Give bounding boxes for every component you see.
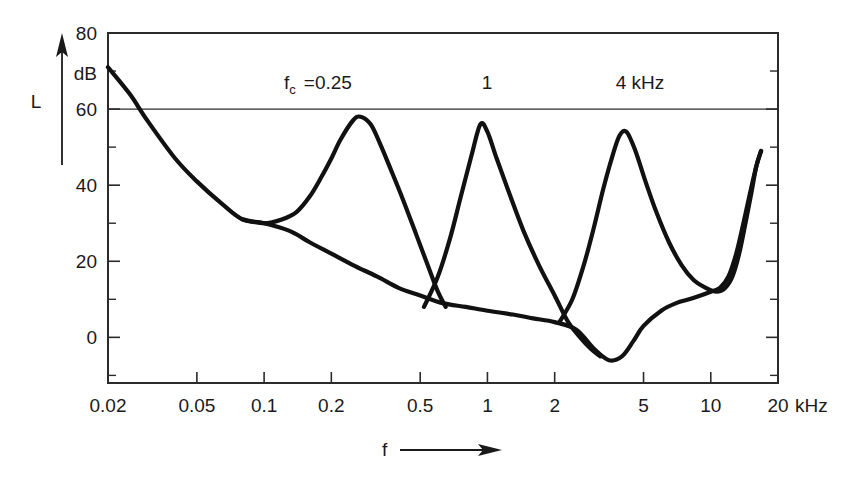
x-tick-label: 10 (700, 395, 721, 416)
masker-subscript: c (289, 82, 296, 97)
x-tick-label: 0.5 (407, 395, 433, 416)
chart-canvas: 020406080 0.020.050.10.20.51251020 dB kH… (0, 0, 851, 487)
curve-masking-threshold-fc-0p25 (242, 116, 445, 306)
x-axis-title: f (382, 439, 388, 460)
y-axis-ticks (108, 33, 778, 375)
x-axis-tick-labels: 0.020.050.10.20.51251020 (90, 395, 789, 416)
y-axis-title-group: L (31, 33, 68, 165)
masking-threshold-figure: 020406080 0.020.050.10.20.51251020 dB kH… (0, 0, 851, 487)
x-axis-unit-label: kHz (795, 395, 828, 416)
masker-value-1: =0.25 (304, 72, 352, 93)
x-tick-label: 20 (767, 395, 788, 416)
curve-masking-threshold-fc-1 (424, 123, 600, 356)
y-tick-label: 40 (76, 175, 97, 196)
x-tick-label: 2 (549, 395, 560, 416)
x-tick-label: 0.2 (318, 395, 344, 416)
x-axis-title-group: f (382, 439, 502, 460)
y-tick-label: 60 (76, 99, 97, 120)
x-axis-ticks (108, 372, 778, 383)
y-tick-label: 80 (76, 23, 97, 44)
y-tick-label: 0 (86, 327, 97, 348)
axis-frame (108, 33, 778, 383)
y-axis-unit-label: dB (74, 63, 97, 84)
y-tick-label: 20 (76, 251, 97, 272)
masker-annotations: fc=0.25 1 4 kHz (284, 72, 664, 97)
curve-masking-threshold-fc-4 (559, 131, 761, 322)
masker-annotation-1: fc=0.25 (284, 72, 352, 97)
masker-annotation-2: 1 (482, 72, 493, 93)
x-tick-label: 1 (482, 395, 493, 416)
x-tick-label: 5 (638, 395, 649, 416)
x-tick-label: 0.02 (90, 395, 127, 416)
x-tick-label: 0.1 (251, 395, 277, 416)
data-curves (108, 67, 761, 360)
plot-frame (108, 33, 778, 383)
y-axis-title: L (31, 91, 42, 112)
curve-threshold-in-quiet (108, 67, 761, 360)
masker-annotation-3: 4 kHz (616, 72, 665, 93)
x-tick-label: 0.05 (178, 395, 215, 416)
